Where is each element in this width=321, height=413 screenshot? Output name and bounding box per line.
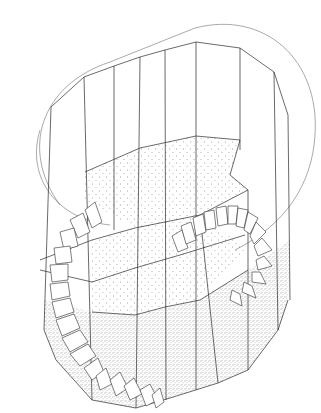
axonometric-drawing	[0, 0, 321, 413]
mid-floor	[40, 136, 248, 315]
tower-stair-drawing	[0, 0, 321, 413]
top-polygon	[51, 42, 288, 115]
